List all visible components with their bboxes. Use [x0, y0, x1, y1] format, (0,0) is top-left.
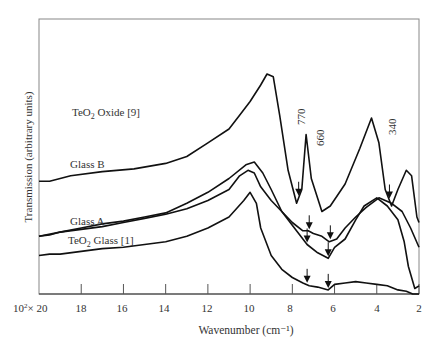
plot-frame	[39, 19, 419, 294]
tick-label-10: 10	[244, 302, 256, 314]
tick-label-6: 6	[330, 302, 336, 314]
tick-label-14: 14	[159, 302, 171, 314]
annotation-660: 660	[314, 129, 326, 146]
tick-label-16: 16	[117, 302, 129, 314]
down-arrow-icon	[327, 232, 334, 239]
tick-label-8: 8	[287, 302, 293, 314]
x-axis-label: Wavenumber (cm⁻¹)	[198, 324, 293, 337]
annotation-770: 770	[295, 108, 307, 125]
tick-label-4: 4	[374, 302, 380, 314]
down-arrow-icon	[306, 222, 313, 229]
x-axis-ticks	[81, 284, 419, 294]
tick-label-2: 2	[416, 302, 422, 314]
spectrum-chart: 102× 20 18 16 14 12 10 8 6 4 2 Wavenumbe…	[0, 0, 444, 343]
annotation-340: 340	[386, 118, 398, 135]
series-label-glass-a: Glass A	[70, 215, 105, 227]
series-label-teo2-oxide: TeO2 Oxide [9]	[72, 106, 140, 121]
tick-label-12: 12	[202, 302, 213, 314]
curve-teo2-oxide	[39, 74, 419, 223]
down-arrow-icon	[304, 276, 311, 283]
y-axis-label: Transmission (arbitrary units)	[22, 91, 35, 222]
series-label-glass-b: Glass B	[70, 158, 105, 170]
tick-label-18: 18	[76, 302, 88, 314]
tick-label-20: 102× 20	[13, 302, 48, 314]
